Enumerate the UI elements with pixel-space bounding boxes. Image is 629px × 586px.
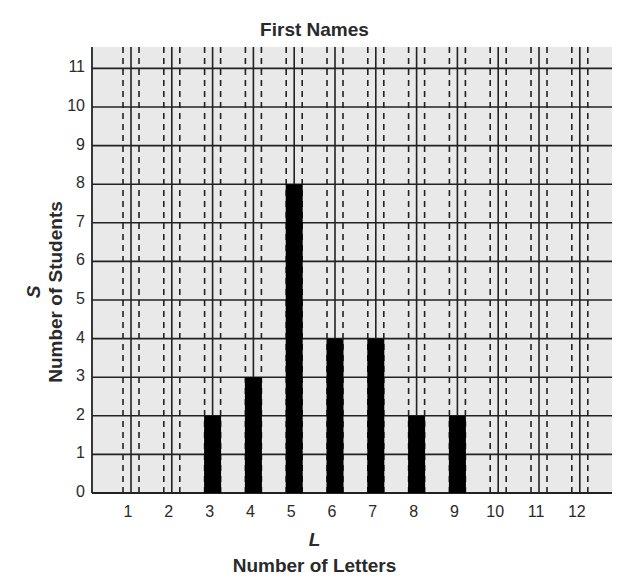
chart-canvas — [0, 0, 629, 586]
x-axis-variable: L — [0, 529, 629, 551]
bar-5 — [286, 184, 303, 493]
x-tick-label: 11 — [521, 503, 551, 521]
y-tick-label: 10 — [55, 97, 85, 115]
bar-6 — [327, 339, 344, 493]
bar-7 — [367, 339, 384, 493]
bar-4 — [245, 377, 262, 493]
y-axis-label: S Number of Students — [23, 142, 67, 442]
x-tick-label: 4 — [235, 503, 265, 521]
bar-3 — [204, 416, 221, 493]
x-tick-label: 7 — [358, 503, 388, 521]
bar-8 — [408, 416, 425, 493]
x-tick-label: 8 — [399, 503, 429, 521]
bar-9 — [449, 416, 466, 493]
x-tick-label: 3 — [195, 503, 225, 521]
y-tick-label: 0 — [55, 483, 85, 501]
y-axis-title: Number of Students — [45, 142, 67, 442]
y-axis-variable: S — [23, 142, 45, 442]
y-tick-label: 11 — [55, 58, 85, 76]
x-tick-label: 6 — [317, 503, 347, 521]
y-tick-label: 1 — [55, 444, 85, 462]
x-tick-label: 5 — [276, 503, 306, 521]
x-tick-label: 9 — [439, 503, 469, 521]
x-tick-label: 2 — [154, 503, 184, 521]
x-tick-label: 10 — [480, 503, 510, 521]
x-tick-label: 1 — [113, 503, 143, 521]
x-axis-label: Number of Letters — [0, 555, 629, 577]
x-tick-label: 12 — [562, 503, 592, 521]
